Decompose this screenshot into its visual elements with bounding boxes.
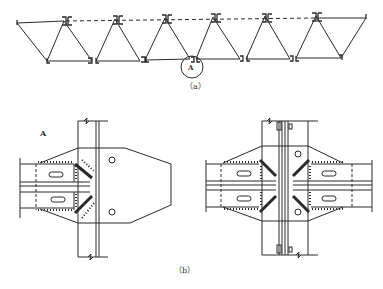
end-connection-detail xyxy=(20,118,171,260)
truss-diagram xyxy=(0,0,383,289)
caption-b: （b） xyxy=(174,264,195,275)
caption-a: （a） xyxy=(185,80,206,91)
detail-marker-label: A xyxy=(188,63,193,72)
middle-connection-detail xyxy=(206,118,372,258)
detail-label-a: A xyxy=(40,128,46,138)
